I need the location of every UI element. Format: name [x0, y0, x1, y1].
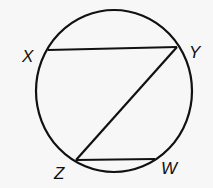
circle-diagram: X Y Z W: [0, 0, 213, 188]
circle: [36, 10, 192, 172]
chord-yz: [76, 47, 177, 160]
label-x: X: [21, 47, 34, 66]
label-z: Z: [53, 164, 65, 183]
diagram-svg: X Y Z W: [0, 0, 213, 188]
chord-zw: [76, 159, 155, 160]
label-y: Y: [189, 43, 202, 62]
label-w: W: [161, 159, 179, 178]
chord-xy: [48, 47, 177, 50]
